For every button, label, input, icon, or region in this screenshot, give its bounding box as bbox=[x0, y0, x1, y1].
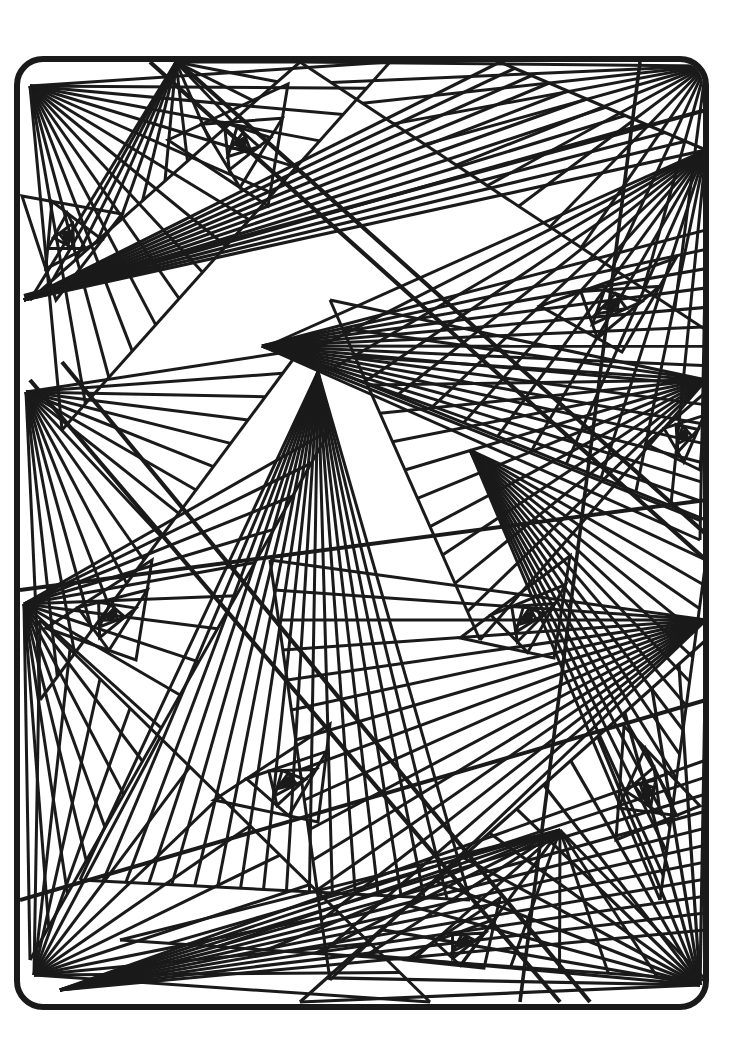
spiral-core bbox=[240, 142, 243, 145]
coloring-page: Geometric Abstract Coloring Page bbox=[0, 0, 755, 1057]
spiral-core bbox=[527, 616, 530, 619]
spiral-core bbox=[286, 781, 289, 783]
fan-ray bbox=[560, 830, 561, 970]
spiral-core bbox=[462, 941, 465, 943]
spiral-core bbox=[110, 615, 113, 618]
spiral-core bbox=[645, 789, 647, 792]
spiral-core bbox=[611, 304, 613, 306]
geometric-line-art-canvas bbox=[0, 0, 755, 1057]
spiral-core bbox=[682, 434, 685, 438]
spiral-core bbox=[65, 235, 68, 238]
